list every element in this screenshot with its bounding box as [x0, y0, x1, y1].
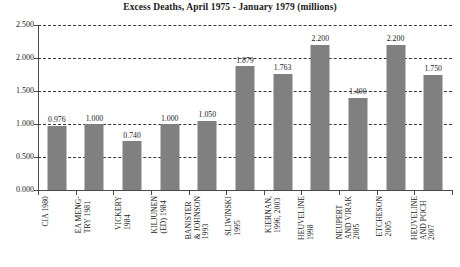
- x-axis-tick-mark: [339, 190, 340, 195]
- bar: [47, 126, 66, 190]
- x-axis-tick-label-line: 1996, 2003: [273, 196, 282, 233]
- bar-value-label: 2.200: [311, 35, 329, 43]
- x-axis-tick-mark: [189, 190, 190, 195]
- y-axis-tick-label: 0.000: [2, 186, 34, 194]
- x-axis-tick-label: KILJUNEN(ED) 1984: [151, 196, 168, 234]
- x-axis-tick-label-line: 1993: [203, 196, 212, 239]
- bar: [424, 75, 443, 191]
- bar-value-label: 1.050: [199, 111, 217, 119]
- x-axis-tick-label: HEUVELINEAND POCH2007: [411, 196, 437, 240]
- bar-group: 2.200: [301, 25, 339, 190]
- y-axis-tick-label: 2.000: [2, 54, 34, 62]
- x-axis-tick-mark: [301, 190, 302, 195]
- bar: [386, 45, 405, 190]
- bar-value-label: 2.200: [387, 35, 405, 43]
- bar-group: 1.763: [264, 25, 302, 190]
- x-axis-tick-mark: [38, 190, 39, 195]
- x-axis-label-slot: BANISTER& JOHNSON1993: [189, 196, 227, 266]
- x-axis-label-slot: KIERNAN,1996, 2003: [264, 196, 302, 266]
- bar-value-label: 0.976: [48, 116, 66, 124]
- y-axis-tick-label: 1.500: [2, 87, 34, 95]
- x-axis-label-slot: KILJUNEN(ED) 1984: [151, 196, 189, 266]
- bar-group: 0.740: [113, 25, 151, 190]
- x-axis-tick-label: EA MENG-TRY 1981: [76, 196, 93, 233]
- bar-group: 1.000: [76, 25, 114, 190]
- bar-value-label: 1.879: [236, 57, 254, 65]
- x-axis-tick-label-line: 1995: [234, 196, 243, 236]
- bar-value-label: 1.763: [274, 64, 292, 72]
- x-axis-tick-label: ETCHESON2005: [375, 196, 392, 236]
- bar: [235, 66, 254, 190]
- bar-value-label: 1.400: [349, 88, 367, 96]
- x-axis-label-slot: HEUVELINEAND POCH2007: [414, 196, 452, 266]
- excess-deaths-bar-chart: Excess Deaths, April 1975 - January 1979…: [0, 0, 460, 267]
- x-axis-tick-mark: [226, 190, 227, 195]
- y-axis-tick-label: 1.000: [2, 120, 34, 128]
- x-axis-tick-label-line: 2005: [384, 196, 393, 236]
- bar: [273, 74, 292, 190]
- x-axis-label-slot: EA MENG-TRY 1981: [76, 196, 114, 266]
- x-axis-tick-label: CIA 1980: [42, 196, 51, 227]
- x-axis-tick-mark: [452, 190, 453, 195]
- bar-group: 1.879: [226, 25, 264, 190]
- y-axis-tick-label: 0.500: [2, 153, 34, 161]
- x-axis-tick-mark: [377, 190, 378, 195]
- x-axis-tick-mark: [264, 190, 265, 195]
- x-axis-label-slot: SLIWINSKI1995: [226, 196, 264, 266]
- bar: [348, 98, 367, 190]
- x-axis-tick-label-line: KIERNAN,: [264, 196, 273, 233]
- x-axis-tick-label: VICKERY1984: [115, 196, 132, 230]
- bar: [85, 124, 104, 190]
- plot-area: 0.9761.0000.7401.0001.0501.8791.7632.200…: [38, 25, 452, 190]
- x-axis-tick-label-line: ETCHESON: [375, 196, 384, 236]
- x-axis-tick-labels: CIA 1980EA MENG-TRY 1981VICKERY1984KILJU…: [38, 196, 452, 266]
- x-axis-label-slot: NEUPERTAND VIRAK2005: [339, 196, 377, 266]
- bar-value-label: 1.000: [86, 115, 104, 123]
- x-axis-tick-label-line: 2007: [428, 196, 437, 240]
- x-axis-tick-mark: [76, 190, 77, 195]
- x-axis-tick-mark: [151, 190, 152, 195]
- bar-value-label: 1.000: [161, 115, 179, 123]
- bar-group: 1.400: [339, 25, 377, 190]
- x-axis-tick-label: KIERNAN,1996, 2003: [264, 196, 281, 233]
- x-axis-line: [38, 190, 452, 191]
- bar-group: 1.000: [151, 25, 189, 190]
- x-axis-tick-label-line: (ED) 1984: [160, 196, 169, 234]
- bar: [198, 121, 217, 190]
- bar: [160, 124, 179, 190]
- x-axis-label-slot: HEUVELINE1998: [301, 196, 339, 266]
- x-axis-label-slot: CIA 1980: [38, 196, 76, 266]
- bar-group: 1.750: [414, 25, 452, 190]
- x-axis-label-slot: ETCHESON2005: [377, 196, 415, 266]
- x-axis-tick-label: BANISTER& JOHNSON1993: [186, 196, 212, 239]
- bar-value-label: 1.750: [424, 65, 442, 73]
- x-axis-tick-mark: [113, 190, 114, 195]
- x-axis-tick-label-line: TRY 1981: [84, 196, 93, 233]
- bar: [123, 141, 142, 190]
- bar-group: 1.050: [189, 25, 227, 190]
- chart-title: Excess Deaths, April 1975 - January 1979…: [0, 2, 460, 12]
- x-axis-tick-label: SLIWINSKI1995: [225, 196, 242, 236]
- x-axis-tick-label-line: CIA 1980: [42, 196, 51, 227]
- x-axis-tick-label-line: 1998: [307, 196, 316, 240]
- x-axis-tick-label: HEUVELINE1998: [298, 196, 315, 240]
- y-axis-tick-labels: 0.0000.5001.0001.5002.0002.500: [0, 25, 34, 190]
- bar: [311, 45, 330, 190]
- bar-value-label: 0.740: [123, 132, 141, 140]
- bar-group: 2.200: [377, 25, 415, 190]
- x-axis-tick-label-line: 1984: [124, 196, 133, 230]
- y-axis-tick-label: 2.500: [2, 21, 34, 29]
- x-axis-tick-label-line: 2005: [353, 196, 362, 239]
- x-axis-tick-mark: [414, 190, 415, 195]
- bar-group: 0.976: [38, 25, 76, 190]
- x-axis-tick-label: NEUPERTAND VIRAK2005: [336, 196, 362, 239]
- x-axis-label-slot: VICKERY1984: [113, 196, 151, 266]
